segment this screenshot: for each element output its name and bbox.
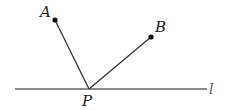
point-p-label: P [81, 92, 93, 110]
point-b-dot [148, 34, 153, 39]
geometry-diagram: A B P l [0, 0, 227, 110]
segment-pb [89, 37, 151, 89]
line-l-label: l [209, 81, 213, 97]
point-a-dot [52, 17, 57, 22]
point-a-label: A [38, 3, 51, 21]
point-b-label: B [154, 18, 166, 36]
segment-pa [55, 20, 89, 89]
